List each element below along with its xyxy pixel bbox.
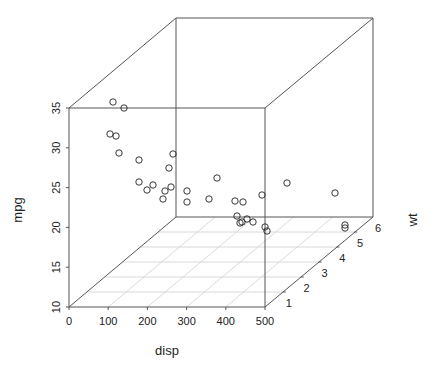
z-tick-label: 30: [50, 142, 62, 154]
z-axis-label: mpg: [10, 197, 25, 222]
data-point: [168, 184, 174, 190]
wt-tick-labels: 123456: [286, 222, 381, 309]
y-tick-label: 1: [286, 297, 292, 309]
data-point: [214, 175, 220, 181]
data-point: [184, 188, 190, 194]
x-tick-label: 500: [256, 315, 274, 327]
data-point: [166, 165, 172, 171]
y-tick-label: 2: [304, 282, 310, 294]
disp-tick-labels: 0100200300400500: [66, 315, 274, 327]
data-point: [259, 192, 265, 198]
data-points: [107, 99, 348, 234]
data-point: [232, 198, 238, 204]
scatterplot3d-chart: 101520253035 0100200300400500 123456 dis…: [0, 0, 440, 368]
data-point: [150, 182, 156, 188]
depth-edge-top-left: [69, 18, 176, 108]
data-point: [162, 188, 168, 194]
z-tick-label: 15: [50, 261, 62, 273]
z-tick-label: 20: [50, 221, 62, 233]
data-point: [110, 99, 116, 105]
data-point: [170, 151, 176, 157]
x-tick-label: 200: [138, 315, 156, 327]
y-axis-label: wt: [405, 213, 420, 227]
y-tick-label: 6: [375, 222, 381, 234]
data-point: [160, 196, 166, 202]
z-tick-label: 25: [50, 181, 62, 193]
mpg-tick-labels: 101520253035: [50, 102, 62, 313]
x-tick-label: 300: [177, 315, 195, 327]
data-point: [234, 213, 240, 219]
x-axis-label: disp: [155, 343, 179, 358]
data-point: [116, 150, 122, 156]
y-tick-label: 4: [339, 252, 345, 264]
data-point: [284, 180, 290, 186]
z-tick-label: 10: [50, 301, 62, 313]
data-point: [239, 219, 245, 225]
data-point: [136, 157, 142, 163]
x-tick-label: 100: [99, 315, 117, 327]
depth-edge-top-right: [265, 18, 373, 108]
z-tick-label: 35: [50, 102, 62, 114]
data-point: [136, 179, 142, 185]
x-tick-label: 400: [217, 315, 235, 327]
data-point: [332, 190, 338, 196]
data-point: [250, 219, 256, 225]
y-tick-label: 5: [357, 237, 363, 249]
x-tick-label: 0: [66, 315, 72, 327]
data-point: [206, 196, 212, 202]
plot-box: [69, 18, 373, 307]
axis-ticks: [66, 108, 357, 310]
data-point: [184, 199, 190, 205]
floor-grid: [87, 217, 354, 307]
data-point: [113, 133, 119, 139]
data-point: [107, 131, 113, 137]
data-point: [144, 187, 150, 193]
y-tick-label: 3: [321, 267, 327, 279]
data-point: [240, 199, 246, 205]
